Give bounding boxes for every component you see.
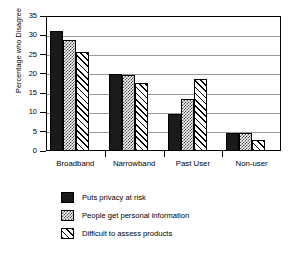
- x-axis-separator-tick: [222, 151, 223, 157]
- legend-label: Puts privacy at risk: [82, 193, 146, 202]
- y-axis-tick-label: 30: [0, 31, 37, 39]
- bar: [76, 52, 89, 152]
- bar: [226, 133, 239, 152]
- bar: [122, 75, 135, 151]
- legend-label: Difficult to assess products: [82, 229, 172, 238]
- bar: [239, 133, 252, 151]
- legend-label: People get personal information: [82, 211, 189, 220]
- chart-legend: Puts privacy at riskPeople get personal …: [61, 188, 189, 242]
- y-axis-tick-label: 20: [0, 70, 37, 78]
- legend-swatch-solid-black: [61, 192, 74, 203]
- x-axis-separator-tick: [164, 151, 165, 157]
- legend-swatch-diagonal-hatch: [61, 228, 74, 239]
- legend-item: Difficult to assess products: [61, 224, 189, 242]
- bar: [135, 83, 148, 151]
- bar: [181, 99, 194, 151]
- bar: [63, 40, 76, 151]
- bars-layer: [46, 16, 281, 151]
- x-axis-separator-tick: [105, 151, 106, 157]
- legend-item: Puts privacy at risk: [61, 188, 189, 206]
- x-axis-label-non-user: Non-user: [222, 159, 281, 168]
- y-axis-tick-label: 15: [0, 89, 37, 97]
- bar: [194, 79, 207, 151]
- x-axis-label-narrowband: Narrowband: [105, 159, 164, 168]
- legend-swatch-checkered-gray: [61, 210, 74, 221]
- y-axis-tick-label: 35: [0, 12, 37, 20]
- bar: [252, 140, 265, 151]
- x-axis-label-past-user: Past User: [164, 159, 223, 168]
- bar: [50, 31, 63, 151]
- y-axis-tick-label: 0: [0, 147, 37, 155]
- y-axis-tick-label: 25: [0, 51, 37, 59]
- y-axis-tick-label: 5: [0, 128, 37, 136]
- bar-chart: Percentage who Disagree 05101520253035 B…: [0, 0, 296, 255]
- bar: [109, 74, 122, 151]
- y-axis-tick-label: 10: [0, 108, 37, 116]
- x-axis-label-broadband: Broadband: [46, 159, 105, 168]
- legend-item: People get personal information: [61, 206, 189, 224]
- bar: [168, 114, 181, 151]
